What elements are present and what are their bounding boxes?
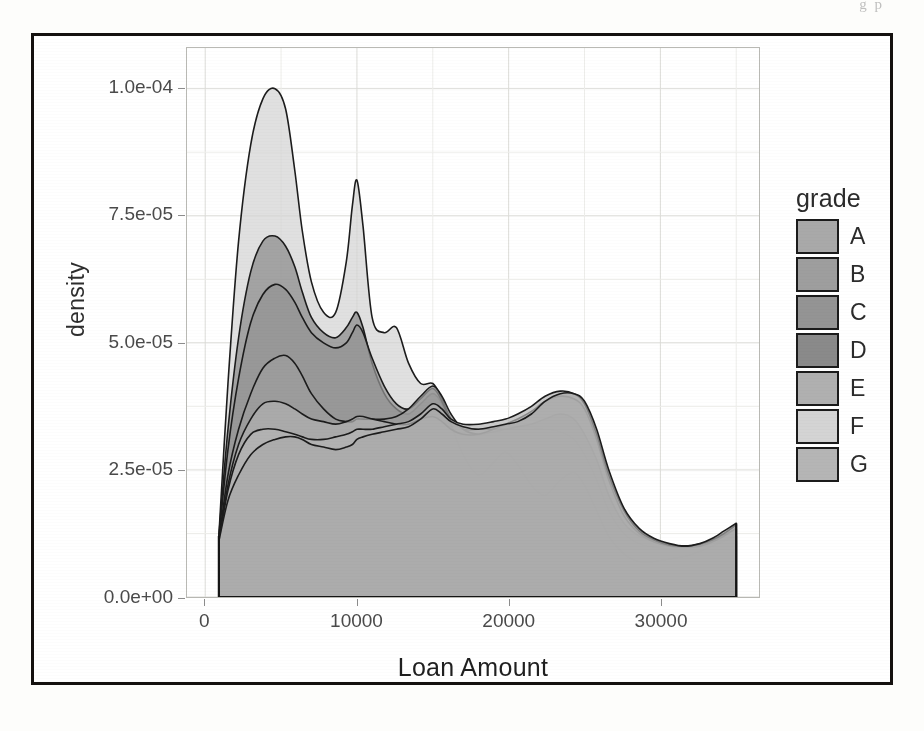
legend-item-a[interactable]: A: [786, 217, 886, 255]
legend-title: grade: [796, 184, 886, 213]
y-tick-label: 1.0e-04: [68, 76, 173, 98]
legend-label-e: E: [850, 377, 865, 400]
legend-item-b[interactable]: B: [786, 255, 886, 293]
y-tick-mark: [178, 470, 185, 471]
legend-item-d[interactable]: D: [786, 331, 886, 369]
x-tick-label: 10000: [297, 610, 417, 632]
plot-panel: [186, 47, 760, 598]
legend-item-e[interactable]: E: [786, 369, 886, 407]
legend-label-a: A: [850, 225, 865, 248]
legend-items: ABCDEFG: [786, 217, 886, 483]
y-tick-mark: [178, 343, 185, 344]
x-tick-mark: [204, 599, 205, 606]
figure-frame: density 0.0e+002.5e-055.0e-057.5e-051.0e…: [31, 33, 893, 685]
legend-swatch-d: [796, 333, 839, 368]
figure-inner: density 0.0e+002.5e-055.0e-057.5e-051.0e…: [34, 36, 890, 682]
legend-label-b: B: [850, 263, 865, 286]
scan-top-artifact-text: g p: [0, 0, 924, 16]
y-tick-label: 2.5e-05: [68, 458, 173, 480]
legend-label-d: D: [850, 339, 867, 362]
legend-label-c: C: [850, 301, 867, 324]
x-tick-label: 20000: [449, 610, 569, 632]
y-tick-label: 7.5e-05: [68, 203, 173, 225]
legend-item-c[interactable]: C: [786, 293, 886, 331]
legend: grade ABCDEFG: [786, 184, 886, 483]
x-tick-mark: [661, 599, 662, 606]
y-tick-mark: [178, 598, 185, 599]
legend-item-g[interactable]: G: [786, 445, 886, 483]
x-tick-mark: [509, 599, 510, 606]
legend-swatch-a: [796, 219, 839, 254]
density-plot-svg: [187, 48, 759, 597]
legend-swatch-e: [796, 371, 839, 406]
x-tick-mark: [357, 599, 358, 606]
y-tick-mark: [178, 88, 185, 89]
y-tick-label: 0.0e+00: [68, 586, 173, 608]
x-axis-title: Loan Amount: [186, 653, 760, 682]
legend-swatch-c: [796, 295, 839, 330]
y-tick-label: 5.0e-05: [68, 331, 173, 353]
legend-swatch-b: [796, 257, 839, 292]
y-tick-mark: [178, 215, 185, 216]
legend-swatch-g: [796, 447, 839, 482]
legend-label-f: F: [850, 415, 864, 438]
x-tick-label: 0: [144, 610, 264, 632]
legend-swatch-f: [796, 409, 839, 444]
x-tick-label: 30000: [601, 610, 721, 632]
legend-item-f[interactable]: F: [786, 407, 886, 445]
legend-label-g: G: [850, 453, 868, 476]
